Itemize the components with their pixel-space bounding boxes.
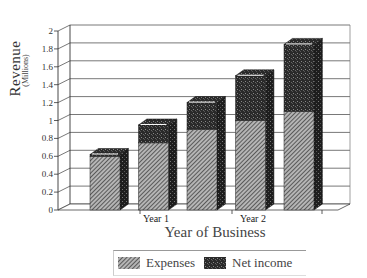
speckle-swatch-icon: [204, 257, 226, 269]
legend-item-expenses: Expenses: [118, 255, 195, 271]
legend-item-net-income: Net income: [204, 255, 292, 271]
hatch-swatch-icon: [118, 257, 140, 269]
svg-text:0: 0: [49, 205, 54, 215]
legend-label: Net income: [232, 255, 292, 271]
svg-text:0.8: 0.8: [42, 133, 54, 143]
legend-label: Expenses: [146, 255, 195, 271]
svg-text:0.4: 0.4: [42, 169, 54, 179]
y-axis-subtitle: (Millions): [21, 26, 30, 116]
svg-text:1.2: 1.2: [42, 98, 53, 108]
svg-text:0.2: 0.2: [42, 187, 53, 197]
svg-text:2: 2: [49, 26, 54, 36]
x-tick-label: Year 1: [143, 213, 169, 224]
svg-text:1: 1: [49, 116, 54, 126]
x-axis-title: Year of Business: [150, 224, 280, 241]
x-tick-label: Year 2: [240, 213, 266, 224]
svg-text:1.8: 1.8: [42, 44, 54, 54]
bar-series: [90, 38, 322, 210]
svg-text:1.6: 1.6: [42, 62, 54, 72]
svg-text:1.4: 1.4: [42, 80, 54, 90]
svg-text:0.6: 0.6: [42, 151, 54, 161]
chart-legend: Expenses Net income: [113, 250, 306, 276]
